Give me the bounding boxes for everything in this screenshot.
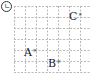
point-a-label: A	[24, 46, 32, 59]
point-a-marker-icon: *	[33, 48, 37, 56]
point-a: A*	[24, 47, 36, 58]
problem-label-badge: ㄴ	[1, 1, 12, 12]
point-b-marker-icon: *	[57, 59, 61, 67]
point-c-label: C	[69, 10, 77, 23]
point-b: B*	[48, 58, 61, 69]
point-c: C*	[69, 11, 82, 22]
point-c-marker-icon: *	[78, 12, 82, 20]
point-b-label: B	[48, 57, 56, 70]
